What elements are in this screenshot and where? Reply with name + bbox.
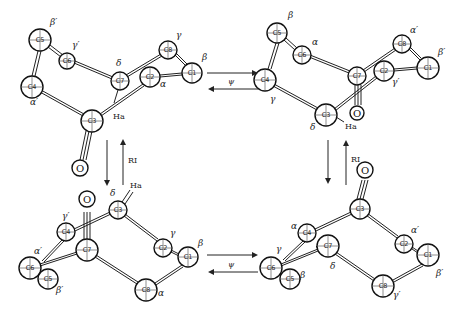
position-label: γ — [176, 30, 182, 40]
ri-label-right: RI — [351, 155, 360, 164]
psi-label-top: ψ — [228, 77, 235, 86]
position-label: β — [201, 52, 207, 62]
atom-c4: C4γ′ — [57, 211, 75, 241]
atom-label: C2 — [146, 73, 155, 81]
atom-label: C8 — [142, 286, 151, 294]
atom-label: C7 — [353, 72, 362, 80]
ri-label-left: RI — [128, 156, 137, 165]
position-label: α — [291, 221, 297, 231]
hydrogen-label-bottom-left: Ha — [130, 181, 142, 190]
atom-c2: C2γ′ — [374, 61, 399, 87]
atom-label: C1 — [184, 253, 193, 261]
svg-text:O: O — [361, 165, 369, 176]
atom-label: C1 — [424, 251, 433, 259]
position-label: α′ — [410, 25, 418, 35]
position-label: α — [312, 37, 318, 47]
position-label: β′ — [437, 47, 445, 57]
ri-arrows-left: RI — [104, 139, 137, 186]
position-label: β — [287, 10, 293, 20]
position-label: β — [299, 270, 305, 280]
atom-c1: C1β — [182, 52, 207, 83]
position-label: α′ — [411, 225, 419, 235]
position-label: γ′ — [392, 77, 399, 87]
atom-label: C7 — [116, 77, 125, 85]
atom-label: C7 — [324, 242, 333, 250]
position-label: α′ — [30, 97, 38, 107]
atom-c5: C5β — [267, 10, 293, 43]
atom-c5: C5β′ — [38, 269, 63, 295]
oxygen-atom-top-left: O — [72, 160, 88, 176]
atom-c6: C6γ — [260, 244, 282, 279]
psi-arrows-top: ψ — [207, 70, 258, 92]
atom-c5: C5β′ — [29, 17, 57, 51]
atom-label: C3 — [356, 205, 365, 213]
svg-text:O: O — [353, 108, 361, 119]
atom-label: C5 — [286, 275, 295, 283]
atom-label: C4 — [303, 229, 312, 237]
atom-label: C3 — [322, 111, 331, 119]
atom-c7: C7δ — [317, 235, 339, 271]
atom-label: C4 — [261, 76, 270, 84]
atom-label: C6 — [63, 57, 72, 65]
position-label: γ — [276, 244, 282, 254]
hydrogen-label-top-right: Ha — [345, 122, 357, 131]
position-label: β — [197, 238, 203, 248]
atom-label: C1 — [188, 69, 197, 77]
atom-c6: C6α — [293, 37, 318, 64]
psi-arrows-bottom: ψ — [207, 252, 258, 275]
atom-c2: C2α — [140, 67, 166, 89]
position-label: δ — [330, 261, 335, 271]
bonds-top-left — [32, 45, 187, 160]
atom-label: C1 — [424, 64, 433, 72]
atoms-layer: C5β′C6γ′C4α′C7δC2αC8γC1βC3C5βC6αC4γC7C2γ… — [19, 10, 445, 301]
atom-label: C7 — [83, 246, 92, 254]
svg-text:O: O — [76, 163, 84, 174]
atom-label: C2 — [380, 67, 389, 75]
atom-label: C2 — [400, 240, 409, 248]
position-label: δ — [310, 122, 315, 132]
position-label: δ — [116, 58, 121, 68]
position-label: γ′ — [62, 211, 69, 221]
psi-label-bottom: ψ — [228, 260, 235, 269]
atom-c1: C1β′ — [417, 244, 443, 278]
svg-text:O: O — [83, 194, 91, 205]
oxygen-atom-top-right: O — [350, 106, 364, 120]
atom-c3: C3 — [81, 110, 103, 132]
atom-label: C4 — [62, 228, 71, 236]
structure-bottom-left: C3δC4γ′C7C6α′C5β′C2γC1βC8α — [19, 188, 203, 301]
position-label: β′ — [55, 285, 63, 295]
atom-c4: C4γ — [254, 69, 276, 104]
position-label: α′ — [34, 246, 42, 256]
position-label: γ′ — [72, 40, 79, 50]
atom-label: C6 — [26, 264, 35, 272]
position-label: γ′ — [393, 290, 400, 300]
atom-c3: C3δ — [109, 188, 127, 219]
conformation-diagram: C5β′C6γ′C4α′C7δC2αC8γC1βC3C5βC6αC4γC7C2γ… — [0, 0, 464, 316]
oxygen-atom-bottom-right: O — [357, 162, 373, 178]
atom-c1: C1β — [178, 238, 203, 267]
atom-c5: C5β — [280, 269, 305, 289]
atom-label: C3 — [114, 206, 123, 214]
atom-c3: C3 — [350, 199, 370, 219]
atom-label: C8 — [398, 40, 407, 48]
atom-label: C4 — [28, 83, 37, 91]
hydrogen-label-top-left: Ha — [113, 112, 125, 121]
atom-c4: C4α′ — [21, 76, 43, 107]
position-label: δ — [110, 188, 115, 198]
position-label: γ — [270, 94, 276, 104]
atom-c8: C8γ — [159, 30, 182, 59]
oxygen-atom-bottom-left: O — [79, 191, 95, 207]
atom-c8: C8α′ — [393, 25, 418, 53]
atom-c7: C7 — [76, 239, 98, 261]
atom-label: C8 — [164, 46, 173, 54]
atom-c4: C4α — [291, 221, 316, 242]
atom-c1: C1β′ — [417, 47, 445, 79]
position-label: γ — [170, 228, 176, 238]
atom-label: C5 — [44, 275, 53, 283]
position-label: β′ — [49, 17, 57, 27]
atom-label: C2 — [159, 244, 168, 252]
atom-label: C5 — [36, 36, 45, 44]
molecular-structures-svg: C5β′C6γ′C4α′C7δC2αC8γC1βC3C5βC6αC4γC7C2γ… — [0, 0, 464, 316]
atom-c7: C7δ — [111, 58, 129, 90]
atom-label: C6 — [267, 264, 276, 272]
